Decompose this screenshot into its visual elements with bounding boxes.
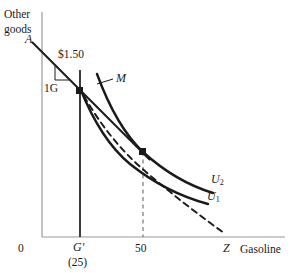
x-tick-sublabel-25: (25) — [68, 256, 87, 269]
y-axis-label-line1: Other — [4, 8, 30, 21]
curve-label-u1-text: U — [207, 189, 216, 203]
curve-label-u2-text: U — [211, 172, 220, 186]
curve-label-u1-subscript: 1 — [216, 195, 220, 204]
figure-canvas — [0, 0, 291, 273]
price-label: $1.50 — [58, 48, 84, 61]
x-axis-label: Gasoline — [240, 243, 281, 256]
budget-line-segment — [32, 42, 150, 160]
origin-label: 0 — [18, 242, 24, 255]
economics-indifference-curve-figure: Other goods A $1.50 1G M U2 U1 0 G′ (25)… — [0, 0, 291, 273]
dashed-original-budget-curve — [84, 96, 224, 233]
x-tick-label-z: Z — [223, 242, 230, 255]
quantity-label-1g: 1G — [44, 82, 58, 95]
indifference-curve-u2 — [97, 74, 213, 193]
tangency-marker-at-50 — [139, 148, 146, 155]
point-label-a: A — [25, 33, 32, 46]
curve-label-u2: U2 — [211, 173, 224, 186]
curve-label-u2-subscript: 2 — [220, 178, 224, 187]
indifference-curve-u1 — [80, 88, 208, 204]
x-tick-label-g-prime: G′ — [73, 241, 84, 254]
x-tick-label-50: 50 — [135, 242, 147, 255]
curve-label-u1: U1 — [207, 190, 220, 203]
tangency-marker-at-g-prime — [76, 87, 83, 94]
rationing-label-m: M — [116, 72, 126, 85]
